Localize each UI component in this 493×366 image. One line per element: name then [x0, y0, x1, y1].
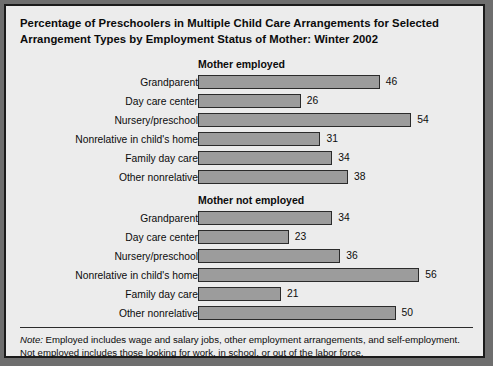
bar-value-label: 36 [346, 250, 357, 261]
chart-note: Note: Employed includes wage and salary … [20, 333, 475, 359]
chart-title: Percentage of Preschoolers in Multiple C… [20, 16, 472, 47]
bar [198, 94, 301, 108]
bar-value-label: 38 [354, 171, 365, 182]
bar [198, 306, 396, 320]
bar-value-label: 54 [417, 114, 428, 125]
bar-category-label: Other nonrelative [119, 172, 198, 183]
bar-category-label: Nursery/preschool [114, 115, 198, 126]
bar-category-label: Day care center [125, 232, 198, 243]
bar-row: Family day care21 [6, 286, 483, 305]
plot-area: Mother employedGrandparent46Day care cen… [6, 58, 483, 326]
bar-row: Nonrelative in child's home56 [6, 267, 483, 286]
chart-figure: Percentage of Preschoolers in Multiple C… [4, 4, 485, 358]
bar-value-label: 34 [338, 212, 349, 223]
note-divider [20, 327, 473, 328]
bar-value-label: 46 [386, 76, 397, 87]
bar-value-label: 34 [338, 152, 349, 163]
bar [198, 211, 332, 225]
bar-value-label: 31 [326, 133, 337, 144]
bar [198, 249, 340, 263]
bar-category-label: Day care center [125, 96, 198, 107]
bar-category-label: Family day care [125, 153, 198, 164]
bar-category-label: Nonrelative in child's home [75, 270, 198, 281]
bar-row: Other nonrelative50 [6, 305, 483, 324]
bar-category-label: Nursery/preschool [114, 251, 198, 262]
bar-value-label: 23 [295, 231, 306, 242]
bar-row: Grandparent34 [6, 210, 483, 229]
note-line-2: Not employed includes those looking for … [20, 347, 363, 358]
group-heading: Mother employed [198, 58, 285, 70]
bar-row: Grandparent46 [6, 74, 483, 93]
bar-row: Day care center26 [6, 93, 483, 112]
group-heading: Mother not employed [198, 194, 304, 206]
bar [198, 287, 281, 301]
bar [198, 170, 348, 184]
bar-category-label: Nonrelative in child's home [75, 134, 198, 145]
bar-value-label: 56 [425, 269, 436, 280]
bar-category-label: Family day care [125, 289, 198, 300]
bar [198, 268, 419, 282]
bar-value-label: 50 [402, 307, 413, 318]
bar-category-label: Other nonrelative [119, 308, 198, 319]
bar-category-label: Grandparent [140, 213, 198, 224]
bar-row: Nonrelative in child's home31 [6, 131, 483, 150]
bar-row: Other nonrelative38 [6, 169, 483, 188]
bar [198, 151, 332, 165]
bar [198, 132, 320, 146]
bar-row: Nursery/preschool54 [6, 112, 483, 131]
bar-row: Family day care34 [6, 150, 483, 169]
bar-category-label: Grandparent [140, 77, 198, 88]
bar-row: Day care center23 [6, 229, 483, 248]
bar-value-label: 21 [287, 288, 298, 299]
bar-value-label: 26 [307, 95, 318, 106]
bar [198, 230, 289, 244]
bar [198, 75, 380, 89]
bar-row: Nursery/preschool36 [6, 248, 483, 267]
note-label: Note: [20, 334, 43, 345]
note-line-1: Employed includes wage and salary jobs, … [43, 334, 460, 345]
bar [198, 113, 411, 127]
